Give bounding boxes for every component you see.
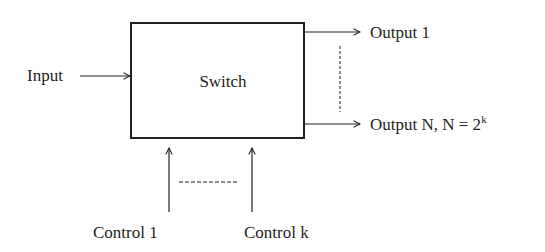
control-1-label: Control 1 bbox=[93, 223, 158, 242]
control-k-label: Control k bbox=[244, 223, 309, 242]
switch-label: Switch bbox=[199, 72, 247, 91]
input-label: Input bbox=[27, 66, 63, 85]
switch-diagram: Switch Input Output 1 Output N, N = 2k C… bbox=[0, 0, 545, 252]
output-1-label: Output 1 bbox=[370, 23, 430, 42]
output-n-label: Output N, N = 2k bbox=[370, 113, 487, 134]
